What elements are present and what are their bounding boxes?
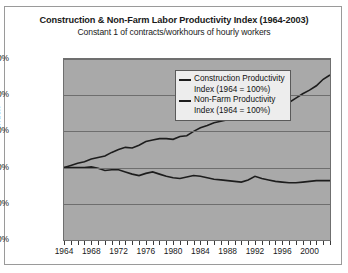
legend-label-construction: Construction ProductivityIndex (1964 = 1… [194, 74, 285, 95]
x-tick-label: 2000 [295, 246, 325, 256]
x-minor-tick [64, 241, 65, 245]
x-minor-tick [228, 241, 229, 245]
x-minor-tick [78, 241, 79, 245]
x-minor-tick [269, 241, 270, 245]
chart-legend: Construction ProductivityIndex (1964 = 1… [175, 70, 291, 121]
chart-frame: Construction & Non-Farm Labor Productivi… [4, 6, 342, 265]
x-minor-tick [159, 241, 160, 245]
x-minor-tick [289, 241, 290, 245]
x-minor-tick [255, 241, 256, 245]
gridline [64, 59, 330, 60]
x-minor-tick [146, 241, 147, 245]
x-minor-tick [330, 241, 331, 245]
x-minor-tick [310, 241, 311, 245]
x-minor-tick [84, 241, 85, 245]
x-tick-label: 1968 [76, 246, 106, 256]
x-minor-tick [282, 241, 283, 245]
x-minor-tick [214, 241, 215, 245]
x-minor-tick [241, 241, 242, 245]
x-tick-label: 1972 [104, 246, 134, 256]
y-tick-label: 150.00% [0, 125, 9, 135]
y-tick-label: 0.00% [0, 234, 9, 244]
gridline [64, 131, 330, 132]
x-tick-label: 1964 [49, 246, 79, 256]
x-minor-tick [125, 241, 126, 245]
x-minor-tick [153, 241, 154, 245]
chart-title: Construction & Non-Farm Labor Productivi… [5, 15, 343, 25]
x-tick-label: 1988 [213, 246, 243, 256]
x-tick-label: 1976 [131, 246, 161, 256]
x-tick-label: 1980 [158, 246, 188, 256]
x-minor-tick [112, 241, 113, 245]
legend-label-nonfarm-line1: Non-Farm Productivity [194, 95, 275, 104]
gridline [64, 204, 330, 205]
legend-entry-nonfarm: Non-Farm ProductivityIndex (1964 = 100%) [179, 95, 285, 116]
x-minor-tick [200, 241, 201, 245]
legend-entry-construction: Construction ProductivityIndex (1964 = 1… [179, 74, 285, 95]
x-minor-tick [180, 241, 181, 245]
legend-line-swatch-nonfarm [179, 100, 191, 102]
x-minor-tick [323, 241, 324, 245]
x-tick-label: 1996 [267, 246, 297, 256]
x-minor-tick [166, 241, 167, 245]
x-minor-tick [194, 241, 195, 245]
x-minor-tick [98, 241, 99, 245]
gridline [64, 168, 330, 169]
x-minor-tick [119, 241, 120, 245]
x-minor-tick [262, 241, 263, 245]
series-line [64, 167, 330, 183]
x-tick-label: 1984 [185, 246, 215, 256]
y-tick-label: 50.00% [0, 198, 9, 208]
y-tick-label: 100.00% [0, 162, 9, 172]
x-minor-tick [132, 241, 133, 245]
x-minor-tick [71, 241, 72, 245]
legend-label-construction-line1: Construction Productivity [194, 74, 285, 83]
x-minor-tick [207, 241, 208, 245]
x-minor-tick [187, 241, 188, 245]
legend-label-nonfarm: Non-Farm ProductivityIndex (1964 = 100%) [194, 95, 275, 116]
chart-subtitle: Constant 1 of contracts/workhours of hou… [5, 27, 343, 37]
y-tick-label: 250.00% [0, 53, 9, 63]
x-minor-tick [296, 241, 297, 245]
y-tick-label: 200.00% [0, 89, 9, 99]
x-minor-tick [91, 241, 92, 245]
x-minor-tick [139, 241, 140, 245]
x-minor-tick [303, 241, 304, 245]
x-minor-tick [275, 241, 276, 245]
x-minor-tick [316, 241, 317, 245]
x-minor-tick [173, 241, 174, 245]
x-minor-tick [248, 241, 249, 245]
x-minor-tick [105, 241, 106, 245]
legend-label-construction-line2: Index (1964 = 100%) [194, 85, 270, 94]
x-tick-label: 1992 [240, 246, 270, 256]
legend-label-nonfarm-line2: Index (1964 = 100%) [194, 106, 270, 115]
legend-line-swatch-construction [179, 79, 191, 81]
x-minor-tick [235, 241, 236, 245]
x-minor-tick [221, 241, 222, 245]
